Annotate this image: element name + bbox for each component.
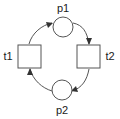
arc-t1-p1-arrowhead: [46, 22, 53, 28]
arc-p2-t1-arrowhead: [27, 68, 33, 75]
place-p1-circle[interactable]: [53, 17, 73, 37]
arc-p1-t2-line: [73, 23, 89, 44]
place-p1-label: p1: [57, 2, 69, 14]
arc-p1-t2: [73, 23, 92, 45]
transition-t2-rect[interactable]: [77, 45, 100, 68]
transition-t2[interactable]: t2: [77, 45, 115, 68]
place-p1[interactable]: p1: [53, 2, 73, 37]
arc-t2-p2: [71, 69, 89, 92]
petri-net-diagram: p1 p2 t1 t2: [0, 0, 120, 119]
arc-p1-t2-arrowhead: [86, 38, 92, 45]
transition-t1-rect[interactable]: [18, 45, 41, 68]
transition-t1[interactable]: t1: [3, 45, 41, 68]
arc-p2-t1-line: [30, 69, 52, 91]
place-p2[interactable]: p2: [52, 80, 72, 116]
arc-p2-t1: [27, 68, 52, 91]
place-p2-label: p2: [56, 104, 68, 116]
transition-t2-label: t2: [105, 50, 114, 62]
arc-t1-p1: [29, 22, 53, 44]
place-p2-circle[interactable]: [52, 80, 72, 100]
petri-net-canvas: p1 p2 t1 t2: [0, 0, 120, 119]
transition-t1-label: t1: [3, 50, 12, 62]
